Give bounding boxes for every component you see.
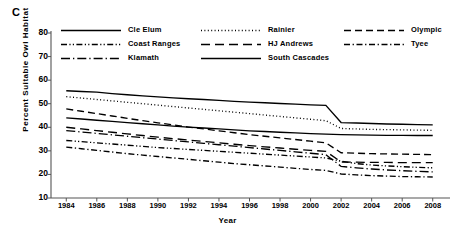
figure-panel-c: C Percent Suitable Owl Habitat Year 8070… bbox=[0, 0, 455, 234]
legend-label: South Cascades bbox=[268, 53, 329, 62]
series-line-south-cascades bbox=[66, 118, 432, 136]
legend-swatch-south-cascades bbox=[200, 52, 262, 65]
legend-label: Klamath bbox=[128, 53, 159, 62]
legend-swatch-rainier bbox=[200, 24, 262, 37]
legend-swatch-olympic bbox=[343, 24, 405, 37]
legend-label: Tyee bbox=[411, 39, 428, 48]
legend: Cle ElumCoast RangesKlamathRainierHJ And… bbox=[60, 24, 450, 68]
legend-swatch-coast-ranges bbox=[60, 38, 122, 51]
legend-label: Cle Elum bbox=[128, 25, 162, 34]
legend-swatch-hj-andrews bbox=[200, 38, 262, 51]
series-line-cle-elum bbox=[66, 91, 432, 125]
legend-swatch-klamath bbox=[60, 52, 122, 65]
legend-label: Coast Ranges bbox=[128, 39, 180, 48]
legend-swatch-cle-elum bbox=[60, 24, 122, 37]
legend-label: Olympic bbox=[411, 25, 442, 34]
legend-swatch-tyee bbox=[343, 38, 405, 51]
legend-label: Rainier bbox=[268, 25, 295, 34]
series-line-coast-ranges bbox=[66, 140, 432, 167]
legend-label: HJ Andrews bbox=[268, 39, 313, 48]
